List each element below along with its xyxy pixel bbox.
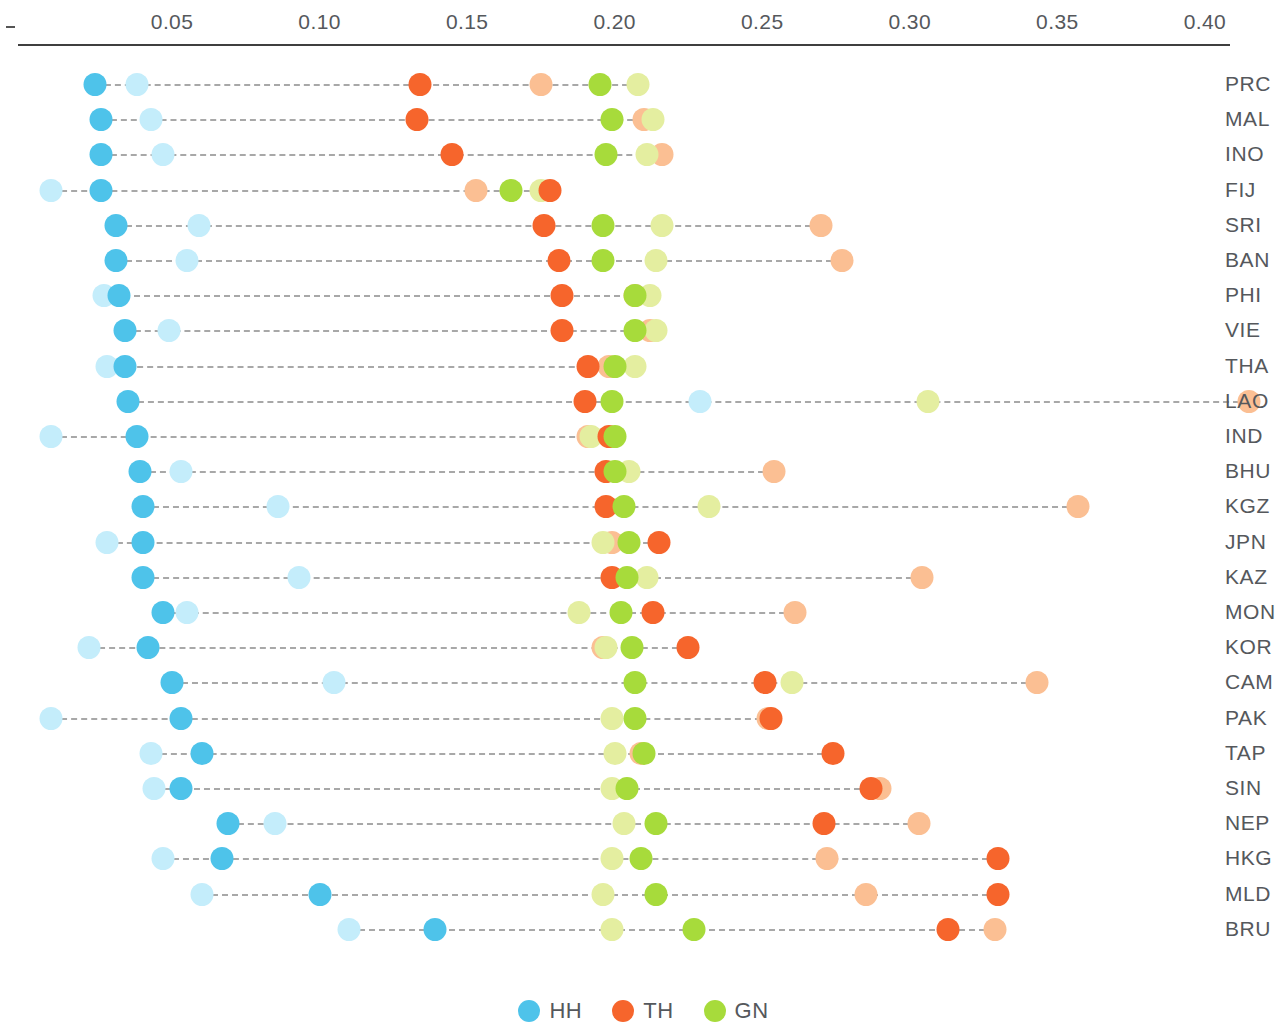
data-point-gn_light[interactable] <box>780 671 803 694</box>
data-point-gn[interactable] <box>600 390 623 413</box>
data-point-th[interactable] <box>405 108 428 131</box>
data-point-gn_light[interactable] <box>916 390 939 413</box>
data-point-hh_light[interactable] <box>187 214 210 237</box>
data-point-th[interactable] <box>574 390 597 413</box>
data-point-gn_light[interactable] <box>627 73 650 96</box>
data-point-gn[interactable] <box>645 883 668 906</box>
data-point-th[interactable] <box>813 812 836 835</box>
data-point-th_light[interactable] <box>465 179 488 202</box>
data-point-hh_light[interactable] <box>323 671 346 694</box>
data-point-gn_light[interactable] <box>591 883 614 906</box>
legend-item-hh[interactable]: HH <box>518 998 582 1024</box>
data-point-hh[interactable] <box>131 495 154 518</box>
data-point-hh[interactable] <box>90 179 113 202</box>
data-point-hh[interactable] <box>113 319 136 342</box>
data-point-hh[interactable] <box>308 883 331 906</box>
data-point-hh[interactable] <box>84 73 107 96</box>
data-point-hh_light[interactable] <box>40 179 63 202</box>
data-point-th[interactable] <box>441 143 464 166</box>
data-point-hh_light[interactable] <box>140 742 163 765</box>
data-point-gn[interactable] <box>603 460 626 483</box>
data-point-hh_light[interactable] <box>169 460 192 483</box>
data-point-hh[interactable] <box>104 214 127 237</box>
data-point-hh_light[interactable] <box>689 390 712 413</box>
legend-item-th[interactable]: TH <box>612 998 673 1024</box>
data-point-hh[interactable] <box>137 636 160 659</box>
data-point-gn[interactable] <box>624 319 647 342</box>
data-point-th_light[interactable] <box>763 460 786 483</box>
data-point-gn[interactable] <box>615 566 638 589</box>
data-point-gn[interactable] <box>618 531 641 554</box>
data-point-hh[interactable] <box>211 847 234 870</box>
data-point-hh_light[interactable] <box>158 319 181 342</box>
data-point-gn[interactable] <box>621 636 644 659</box>
data-point-th_light[interactable] <box>783 601 806 624</box>
data-point-th_light[interactable] <box>830 249 853 272</box>
data-point-th[interactable] <box>987 883 1010 906</box>
data-point-gn[interactable] <box>603 355 626 378</box>
data-point-th[interactable] <box>822 742 845 765</box>
data-point-gn[interactable] <box>615 777 638 800</box>
data-point-th[interactable] <box>760 707 783 730</box>
data-point-hh[interactable] <box>423 918 446 941</box>
data-point-hh_light[interactable] <box>175 601 198 624</box>
data-point-hh_light[interactable] <box>125 73 148 96</box>
data-point-gn[interactable] <box>594 143 617 166</box>
legend-item-gn[interactable]: GN <box>704 998 769 1024</box>
data-point-th[interactable] <box>642 601 665 624</box>
data-point-hh_light[interactable] <box>143 777 166 800</box>
data-point-gn[interactable] <box>591 214 614 237</box>
data-point-hh_light[interactable] <box>175 249 198 272</box>
data-point-th[interactable] <box>647 531 670 554</box>
data-point-gn[interactable] <box>624 707 647 730</box>
data-point-th_light[interactable] <box>907 812 930 835</box>
data-point-hh[interactable] <box>169 777 192 800</box>
data-point-th[interactable] <box>860 777 883 800</box>
data-point-hh[interactable] <box>169 707 192 730</box>
data-point-th_light[interactable] <box>810 214 833 237</box>
data-point-hh[interactable] <box>116 390 139 413</box>
data-point-hh_light[interactable] <box>152 143 175 166</box>
data-point-gn_light[interactable] <box>645 249 668 272</box>
data-point-gn[interactable] <box>624 284 647 307</box>
data-point-hh[interactable] <box>161 671 184 694</box>
data-point-hh[interactable] <box>128 460 151 483</box>
data-point-gn[interactable] <box>591 249 614 272</box>
data-point-gn_light[interactable] <box>568 601 591 624</box>
data-point-gn[interactable] <box>624 671 647 694</box>
data-point-gn_light[interactable] <box>600 847 623 870</box>
data-point-gn[interactable] <box>645 812 668 835</box>
data-point-gn[interactable] <box>600 108 623 131</box>
data-point-gn_light[interactable] <box>612 812 635 835</box>
data-point-th[interactable] <box>937 918 960 941</box>
data-point-hh_light[interactable] <box>40 707 63 730</box>
data-point-gn[interactable] <box>612 495 635 518</box>
data-point-hh_light[interactable] <box>190 883 213 906</box>
data-point-th[interactable] <box>538 179 561 202</box>
data-point-gn_light[interactable] <box>600 707 623 730</box>
data-point-gn_light[interactable] <box>650 214 673 237</box>
data-point-hh_light[interactable] <box>287 566 310 589</box>
data-point-hh_light[interactable] <box>338 918 361 941</box>
data-point-gn[interactable] <box>609 601 632 624</box>
data-point-gn_light[interactable] <box>636 143 659 166</box>
data-point-hh_light[interactable] <box>96 531 119 554</box>
data-point-hh[interactable] <box>152 601 175 624</box>
data-point-hh[interactable] <box>113 355 136 378</box>
data-point-gn_light[interactable] <box>624 355 647 378</box>
data-point-th[interactable] <box>987 847 1010 870</box>
data-point-hh_light[interactable] <box>78 636 101 659</box>
data-point-hh[interactable] <box>217 812 240 835</box>
data-point-th[interactable] <box>408 73 431 96</box>
data-point-gn[interactable] <box>588 73 611 96</box>
data-point-gn_light[interactable] <box>591 531 614 554</box>
data-point-hh[interactable] <box>104 249 127 272</box>
data-point-gn_light[interactable] <box>636 566 659 589</box>
data-point-hh[interactable] <box>190 742 213 765</box>
data-point-th[interactable] <box>550 284 573 307</box>
data-point-th_light[interactable] <box>529 73 552 96</box>
data-point-gn_light[interactable] <box>603 742 626 765</box>
data-point-hh[interactable] <box>90 143 113 166</box>
data-point-hh_light[interactable] <box>40 425 63 448</box>
data-point-th[interactable] <box>677 636 700 659</box>
